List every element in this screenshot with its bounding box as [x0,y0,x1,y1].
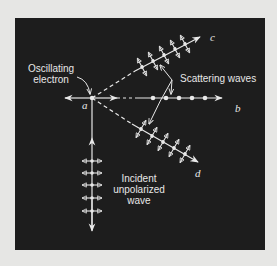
scattering-diagram [0,0,277,266]
electron-leader [77,77,90,94]
ray-d-dashed [92,98,132,124]
direction-b-label: b [235,102,241,114]
label-line: Incident [112,173,166,184]
point-a-label: a [82,99,88,111]
incident-wave-label: Incident unpolarized wave [112,173,166,206]
leader-to-d [149,80,172,124]
scattered-c-polarization-markers [136,34,191,76]
electron-point [90,96,94,100]
oscillating-electron-label: Oscillating electron [28,63,74,85]
ray-c-dashed [92,71,135,98]
scattered-d-polarization-markers [134,119,191,163]
label-line: unpolarized [112,184,166,195]
label-line: Oscillating [28,63,74,74]
direction-d-label: d [195,167,201,179]
leader-to-c [160,65,172,80]
ray-c [135,37,200,71]
direction-c-label: c [210,31,215,43]
label-line: electron [28,74,74,85]
label-line: wave [112,195,166,206]
scattering-waves-label: Scattering waves [180,73,256,84]
